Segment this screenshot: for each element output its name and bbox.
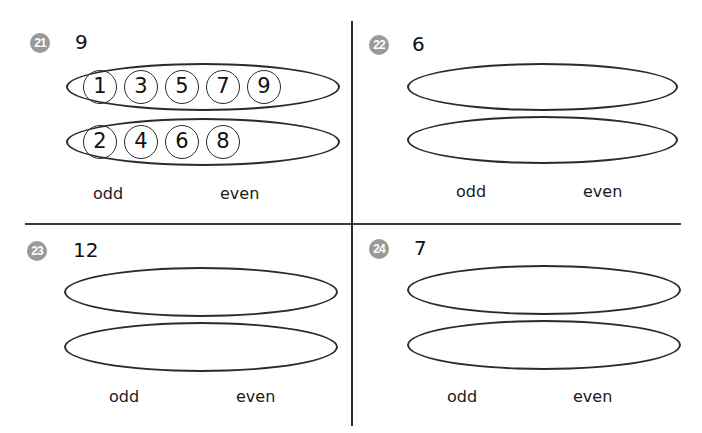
odd-label: odd (109, 388, 139, 406)
even-group-oval[interactable] (407, 116, 678, 164)
odd-group-oval[interactable] (64, 267, 338, 317)
total-number: 6 (412, 33, 425, 55)
odd-label: odd (447, 388, 477, 406)
even-label: even (573, 388, 612, 406)
problem-21: 21 9 1 3 5 7 9 2 4 6 8 odd even (0, 0, 351, 210)
even-circle: 4 (124, 125, 158, 159)
even-label: even (236, 388, 275, 406)
even-label: even (583, 183, 622, 201)
odd-circle: 5 (165, 70, 199, 104)
odd-circle: 3 (124, 70, 158, 104)
problem-number-badge: 21 (30, 33, 50, 53)
odd-group-oval[interactable] (407, 63, 678, 111)
total-number: 9 (75, 31, 88, 53)
problem-number-badge: 22 (369, 35, 389, 55)
odd-circle: 9 (247, 70, 281, 104)
even-group-oval[interactable] (64, 322, 338, 372)
odd-label: odd (93, 185, 123, 203)
even-circle: 8 (206, 125, 240, 159)
total-number: 7 (414, 237, 427, 259)
even-circle: 6 (165, 125, 199, 159)
problem-22: 22 6 odd even (351, 0, 702, 210)
odd-group-oval[interactable] (407, 265, 681, 315)
problem-number-badge: 23 (27, 241, 47, 261)
problem-24: 24 7 odd even (351, 225, 702, 433)
odd-circles: 1 3 5 7 9 (83, 70, 281, 104)
even-circles: 2 4 6 8 (83, 125, 240, 159)
problem-number-badge: 24 (369, 239, 389, 259)
odd-circle: 7 (206, 70, 240, 104)
problem-23: 23 12 odd even (0, 225, 351, 433)
odd-circle: 1 (83, 70, 117, 104)
total-number: 12 (73, 239, 98, 261)
even-label: even (220, 185, 259, 203)
odd-label: odd (456, 183, 486, 201)
even-group-oval[interactable] (407, 320, 681, 370)
even-circle: 2 (83, 125, 117, 159)
